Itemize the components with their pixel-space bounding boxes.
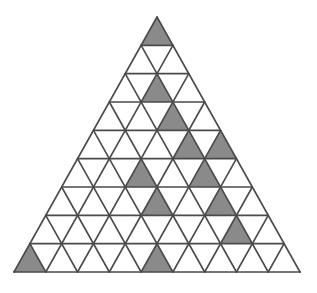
triangular-grid-figure	[0, 0, 317, 293]
figure-canvas	[0, 0, 317, 293]
